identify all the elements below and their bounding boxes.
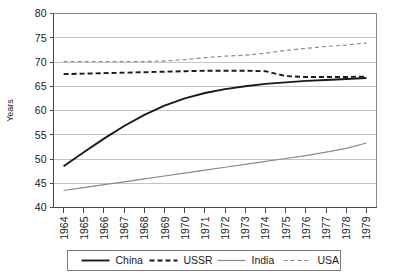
data-series [64,43,367,190]
y-tick-label: 50 [35,153,47,165]
x-tick-label: 1972 [219,216,231,240]
y-tick-label: 75 [35,32,47,44]
y-axis-title-text: Years [5,99,15,122]
y-tick-label: 65 [35,80,47,92]
legend-label-china[interactable]: China [116,254,144,266]
x-tick-label: 1971 [199,216,211,240]
x-tick-label: 1966 [98,216,110,240]
x-tick-label: 1979 [360,216,372,240]
y-tick-label: 40 [35,201,47,213]
x-tick-label: 1973 [239,216,251,240]
line-chart: 404550556065707580 196419651966196719681… [0,0,395,279]
x-tick-label: 1967 [118,216,130,240]
x-tick-label: 1968 [138,216,150,240]
y-tick-label: 80 [35,7,47,19]
x-tick-label: 1976 [300,216,312,240]
y-tick-label: 45 [35,177,47,189]
series-line-usa [64,43,367,61]
y-tick-label: 55 [35,129,47,141]
gridlines [54,14,377,208]
x-tick-label: 1974 [259,216,271,240]
x-tick-label: 1970 [179,216,191,240]
x-tick-label: 1977 [320,216,332,240]
chart-legend: ChinaUSSRIndiaUSA [68,251,341,271]
x-tick-label: 1969 [159,216,171,240]
legend-label-usa[interactable]: USA [318,254,340,266]
x-tick-label: 1978 [340,216,352,240]
series-line-ussr [64,71,367,77]
y-axis-title: Years [5,99,15,122]
x-axis-ticks: 1964196519661967196819691970197119721973… [58,208,373,240]
chart-canvas: 404550556065707580 196419651966196719681… [0,0,395,279]
legend-label-ussr[interactable]: USSR [184,254,214,266]
y-tick-label: 60 [35,104,47,116]
x-tick-label: 1975 [280,216,292,240]
y-axis-ticks: 404550556065707580 [35,7,54,213]
x-tick-label: 1964 [58,216,70,240]
y-tick-label: 70 [35,56,47,68]
x-tick-label: 1965 [78,216,90,240]
legend-label-india[interactable]: India [252,254,275,266]
